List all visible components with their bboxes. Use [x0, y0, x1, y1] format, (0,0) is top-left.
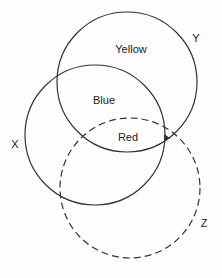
circle-x	[25, 65, 165, 205]
region-label-red: Red	[118, 131, 138, 143]
circle-label-y: Y	[192, 32, 199, 44]
venn-diagram	[0, 0, 222, 278]
region-label-blue: Blue	[93, 94, 115, 106]
region-label-yellow: Yellow	[115, 43, 146, 55]
circle-label-z: Z	[201, 217, 208, 229]
circle-label-x: X	[11, 138, 18, 150]
